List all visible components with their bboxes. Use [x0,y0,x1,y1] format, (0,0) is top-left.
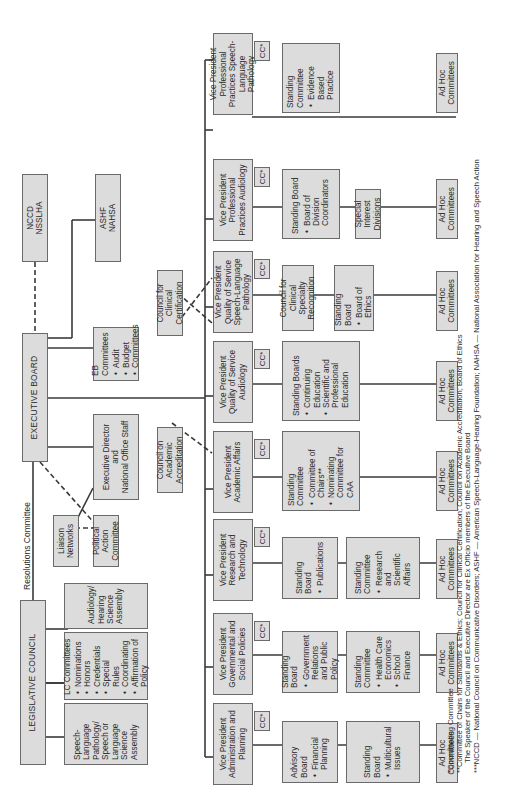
vp-title: Vice President Administration and Planni… [219,708,247,780]
child-title: Standing Board [334,270,353,326]
cc-badge: CC* [254,527,270,547]
child-title: Standing Committee [286,48,305,108]
vp-child-box[interactable]: Special Interest Divisions [355,189,381,239]
eb-committees-box[interactable]: EB Committees Audit Budget Committees [93,327,139,381]
cfcc-box[interactable]: Council for Clinical Certification [157,270,183,336]
audiology-assembly-label: Audiology/ Hearing Science Assembly [87,588,125,624]
vp-administration-box[interactable]: Vice President Administration and Planni… [213,703,253,785]
vp-pp-audiology-box[interactable]: Vice President Professional Practices Au… [213,159,253,241]
child-title: Standing Board [281,636,300,688]
vp-title: Vice President Academic Affairs [224,436,243,508]
child-list: Health Care Economics School Finance [375,636,413,688]
child-title: Advisory Board [290,726,309,778]
list-item: Credentials [93,637,102,687]
vp-pp-slp-box[interactable]: Vice President Professional Practices Sp… [213,33,253,115]
cfcc-label: Council for Clinical Certification [156,275,184,331]
list-item: Evidence Based Practice [307,48,335,100]
child-list: Committee of Chairs** Nominating Committ… [308,436,355,506]
audiology-assembly-box[interactable]: Audiology/ Hearing Science Assembly [64,583,148,629]
vp-child-box[interactable]: Standing Committee Committee of Chairs**… [282,431,360,511]
child-title: Standing Board [363,726,382,778]
list-item: Nominating Committee for CAA [327,436,355,498]
slp-assembly-label: Speech-Language Pathology/ Speech or Lan… [73,708,139,760]
child-list: Board of Ethics [355,270,374,326]
child-title: Council for Clinical Specialty Recogniti… [279,270,317,326]
footnote-4: ***NCCD — National Council on Communicat… [473,159,482,773]
child-list: Publications [316,542,325,594]
cc-badge: CC* [254,167,270,187]
vp-research-box[interactable]: Vice President Research and Technology [213,519,253,601]
nsslha-label: NSSLHA [35,202,44,235]
nccd-nsslha-box[interactable]: NCCD NSSLHA [22,174,48,262]
eb-committees-list: Audit Budget Committees [112,332,140,376]
child-title: Standing Boards [292,346,301,416]
legislative-council-box[interactable]: LEGISLATIVE COUNCIL [20,600,46,765]
child-title: Special Interest Divisions [354,194,382,234]
list-item: Special Rules [102,637,121,687]
org-chart-page: LEGISLATIVE COUNCIL Resolutions Committe… [0,0,506,793]
political-action-committee-box[interactable]: Political Action Committee [93,515,119,567]
list-item: Scientific and Professional Education [322,346,350,408]
lc-committees-box[interactable]: LC Committees Nominations Honors Credent… [64,632,148,700]
child-title: Standing Board [295,542,314,594]
executive-director-box[interactable]: Executive Director and National Office S… [93,414,139,500]
vp-child-box[interactable]: Council for Clinical Specialty Recogniti… [282,265,314,331]
child-list: Board of Division Coordinators [303,174,331,234]
vp-governmental-box[interactable]: Vice President Governmental and Social P… [213,613,253,695]
child-title: Standing Board [291,174,300,234]
list-item: Research and Scientific Affairs [375,542,413,586]
list-item: Coordinating [121,637,130,687]
vp-qos-audiology-box[interactable]: Vice President Quality of Service Audiol… [213,341,253,423]
ashf-nahsa-box[interactable]: ASHF NAHSA [95,174,121,262]
list-item: Government Relations and Public Policy [302,636,340,680]
lc-committees-list: Nominations Honors Credentials Special R… [74,637,149,695]
vp-child-box[interactable]: Standing Board Publications [282,537,338,599]
lc-committees-title: LC Committees [63,637,72,695]
list-item: Committee of Chairs** [308,436,327,498]
child-list: Government Relations and Public Policy [302,636,340,688]
list-item: Continuing Education [303,346,322,408]
list-item: Board of Ethics [355,270,374,318]
executive-board-box[interactable]: EXECUTIVE BOARD [22,333,48,462]
vp-academic-affairs-box[interactable]: Vice President Academic Affairs [213,431,253,513]
nahsa-label: NAHSA [108,204,117,232]
child-list: Continuing Education Scientific and Prof… [303,346,350,416]
vp-child-box[interactable]: Advisory Board Financial Planning [282,721,338,783]
child-title: Standing Committee [287,436,306,506]
child-list: Financial Planning [311,726,330,778]
list-item: Publications [316,542,325,586]
vp-title: Vice President Quality of Service Speech… [214,256,252,328]
list-item: Committees [131,332,140,368]
caa-box[interactable]: Council on Academic Accreditation [157,427,183,493]
vp-child-box[interactable]: Standing Board Government Relations and … [282,631,338,693]
vp-child-box[interactable]: Standing Committee Research and Scientif… [346,537,420,599]
eb-committees-title: EB Committees [91,332,110,376]
list-item: School Finance [393,636,412,680]
vp-child-box[interactable]: Standing Board Multicultural Issues [346,721,420,783]
vp-qos-slp-box[interactable]: Vice President Quality of Service Speech… [213,251,253,333]
child-list: Evidence Based Practice [307,48,335,108]
liaison-networks-box[interactable]: Liaison Networks [53,515,79,567]
legislative-council-label: LEGISLATIVE COUNCIL [28,633,37,731]
vp-child-box[interactable]: Standing Board Board of Division Coordin… [282,169,340,239]
cc-badge: CC* [254,711,270,731]
vp-child-box[interactable]: Standing Boards Continuing Education Sci… [282,341,360,421]
cc-badge: CC* [254,439,270,459]
vp-title: Vice President Research and Technology [219,524,247,596]
vp-child-box[interactable]: Standing Board Board of Ethics [334,265,374,331]
list-item: Affirmation of Policy [131,637,150,687]
exec-director-line2: and [111,450,120,464]
list-item: Board of Division Coordinators [303,174,331,226]
vp-title: Vice President Professional Practices Au… [219,164,247,236]
executive-board-label: EXECUTIVE BOARD [30,356,39,440]
vp-child-box[interactable]: Standing Committee Health Care Economics… [346,631,420,693]
pac-label: Political Action Committee [92,520,120,562]
vp-title: Vice President Governmental and Social P… [219,618,247,690]
list-item: Health Care Economics [375,636,394,680]
footnotes: *Coordinating Committee **Committee of C… [447,159,481,773]
vp-child-box[interactable]: Standing Committee Evidence Based Practi… [282,43,340,113]
ad-hoc-box[interactable]: Ad Hoc Committees [436,53,458,113]
slp-assembly-box[interactable]: Speech-Language Pathology/ Speech or Lan… [64,703,148,765]
vp-title: Vice President Quality of Service Audiol… [219,346,247,418]
list-item: Nominations [74,637,83,687]
